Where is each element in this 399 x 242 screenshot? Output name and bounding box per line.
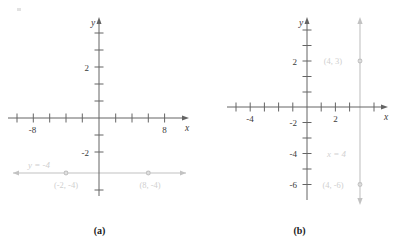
y-axis-label-a: y <box>90 18 96 28</box>
y-tick-label-b-neg2: -2 <box>290 118 298 128</box>
y-axis-b <box>305 17 310 200</box>
graph-point-label-a-1: (-2, -4) <box>54 180 78 190</box>
x-tick-label-b-2: 2 <box>333 114 338 124</box>
graph-line-x-equals-4 <box>357 17 362 205</box>
panel-caption-b: (b) <box>200 225 399 236</box>
figure-two-panel-coordinate-planes: y x -8 8 2 -2 y = -4 (-2, -4) (8, -4) (a… <box>0 0 399 242</box>
panel-a: y x -8 8 2 -2 y = -4 (-2, -4) (8, -4) (a… <box>0 0 199 242</box>
plot-area-b: y x -4 2 2 -2 -4 -6 x = 4 (4, 3) (4, -6) <box>200 0 399 210</box>
x-axis-label-b: x <box>383 112 389 122</box>
y-axis-label-b: y <box>298 18 304 28</box>
y-tick-label-a-neg2: -2 <box>82 148 90 158</box>
y-tick-label-b-neg4: -4 <box>290 149 298 159</box>
x-tick-label-a-neg8: -8 <box>29 125 37 135</box>
y-axis-a <box>97 17 102 196</box>
x-tick-label-b-neg4: -4 <box>246 114 254 124</box>
plot-area-a: y x -8 8 2 -2 y = -4 (-2, -4) (8, -4) <box>0 0 199 210</box>
x-axis-label-a: x <box>184 123 190 133</box>
panel-caption-a: (a) <box>0 225 199 236</box>
y-tick-label-b-2: 2 <box>293 57 298 67</box>
graph-point-label-b-1: (4, 3) <box>324 56 343 66</box>
panel-b: y x -4 2 2 -2 -4 -6 x = 4 (4, 3) (4, -6)… <box>200 0 399 242</box>
graph-point-label-b-2: (4, -6) <box>322 180 343 190</box>
graph-equation-label-a: y = -4 <box>27 160 51 170</box>
y-tick-label-b-neg6: -6 <box>290 180 298 190</box>
graph-point-label-a-2: (8, -4) <box>139 180 160 190</box>
y-tick-label-a-2: 2 <box>85 63 90 73</box>
graph-equation-label-b: x = 4 <box>326 149 347 159</box>
x-tick-label-a-8: 8 <box>162 125 167 135</box>
